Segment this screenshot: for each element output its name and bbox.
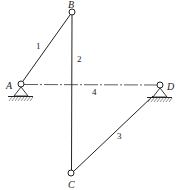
joint-label-c: C — [68, 179, 75, 190]
joint-a-icon — [18, 81, 24, 87]
joint-label-b: B — [68, 0, 74, 10]
link-2 — [72, 15, 73, 170]
link-3 — [74, 96, 153, 171]
link-label-4: 4 — [92, 87, 97, 97]
link-1 — [23, 15, 70, 81]
joint-label-d: D — [166, 81, 175, 92]
linkage-diagram: B A D C 1 2 3 4 — [0, 0, 178, 190]
link-label-3: 3 — [117, 131, 122, 141]
joint-d-icon — [157, 82, 163, 88]
joint-label-a: A — [5, 80, 13, 91]
link-label-1: 1 — [36, 41, 41, 51]
link-label-2: 2 — [77, 54, 82, 64]
link-4-ground — [24, 85, 157, 86]
joint-c-icon — [68, 170, 74, 176]
